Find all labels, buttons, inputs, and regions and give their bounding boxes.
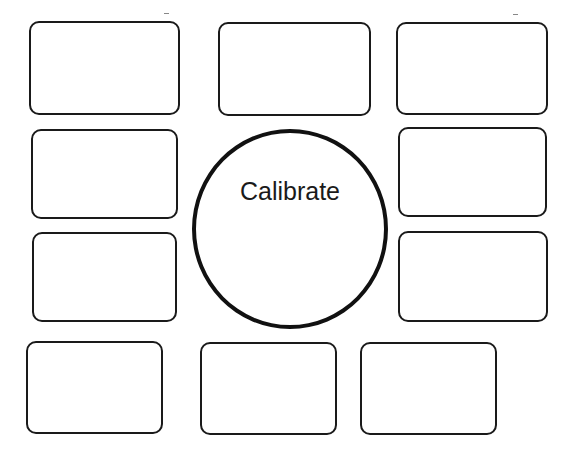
box-top-left[interactable] [29,21,180,115]
box-bottom-right[interactable] [360,342,497,435]
box-bottom-left[interactable] [26,341,163,434]
box-mid-upper-right[interactable] [398,127,547,217]
box-mid-upper-left[interactable] [31,129,178,219]
box-top-right[interactable] [396,22,548,115]
mark-top-right [513,14,518,15]
box-bottom-center[interactable] [200,342,337,435]
box-top-center[interactable] [218,22,371,116]
calibrate-label: Calibrate [196,177,384,206]
box-mid-lower-left[interactable] [32,232,177,322]
mark-top-left [164,13,169,14]
calibrate-button[interactable]: Calibrate [192,129,388,329]
box-mid-lower-right[interactable] [398,231,548,322]
